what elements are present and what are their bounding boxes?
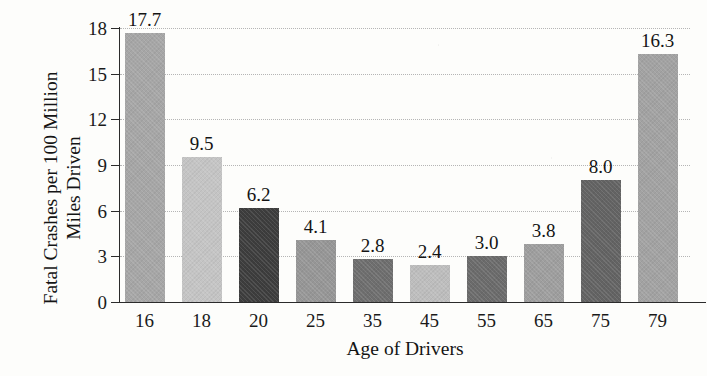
y-axis-tick xyxy=(111,302,120,303)
y-axis-tick xyxy=(111,74,120,75)
y-axis-title-line-1: Fatal Crashes per 100 Million xyxy=(39,72,62,305)
x-axis-tick-label: 18 xyxy=(192,311,211,330)
bar-value-label: 9.5 xyxy=(190,134,214,153)
x-axis-tick-label: 35 xyxy=(363,311,382,330)
y-axis-tick xyxy=(111,119,120,120)
bar[interactable] xyxy=(467,256,507,302)
y-axis-tick xyxy=(111,165,120,166)
bar[interactable] xyxy=(410,265,450,302)
y-axis-tick-label: 6 xyxy=(98,201,108,220)
x-axis-tick-label: 65 xyxy=(534,311,553,330)
y-axis-tick-label: 9 xyxy=(98,156,108,175)
bar-value-label: 3.8 xyxy=(532,221,556,240)
x-axis-tick-label: 75 xyxy=(591,311,610,330)
y-axis-title: Fatal Crashes per 100 Million Miles Driv… xyxy=(14,0,110,376)
y-axis-tick-label: 12 xyxy=(88,110,107,129)
bar-value-label: 17.7 xyxy=(128,10,161,29)
bar[interactable] xyxy=(524,244,564,302)
bar[interactable] xyxy=(581,180,621,302)
bar[interactable] xyxy=(353,259,393,302)
plot-area: 0369121518 17.7169.5186.2204.1252.8352.4… xyxy=(120,28,690,302)
y-axis-title-line-2: Miles Driven xyxy=(62,72,85,305)
bar-value-label: 4.1 xyxy=(304,217,328,236)
y-axis-tick xyxy=(111,256,120,257)
bar[interactable] xyxy=(125,33,165,302)
bar-chart-figure: Fatal Crashes per 100 Million Miles Driv… xyxy=(0,0,707,376)
x-axis-tick-label: 79 xyxy=(648,311,667,330)
y-axis-tick-label: 15 xyxy=(88,64,107,83)
y-axis-tick xyxy=(111,211,120,212)
y-axis-tick-label: 3 xyxy=(98,247,108,266)
y-axis-tick-label: 0 xyxy=(98,293,108,312)
x-axis-tick-label: 25 xyxy=(306,311,325,330)
bar-value-label: 16.3 xyxy=(641,31,674,50)
bar-value-label: 6.2 xyxy=(247,185,271,204)
bar-value-label: 8.0 xyxy=(589,157,613,176)
bar[interactable] xyxy=(182,157,222,302)
bar[interactable] xyxy=(296,240,336,302)
x-axis-tick-label: 20 xyxy=(249,311,268,330)
x-axis-tick-label: 55 xyxy=(477,311,496,330)
bar[interactable] xyxy=(638,54,678,302)
y-axis-tick-label: 18 xyxy=(88,19,107,38)
bar-value-label: 3.0 xyxy=(475,233,499,252)
x-axis-tick-label: 45 xyxy=(420,311,439,330)
bar-value-label: 2.8 xyxy=(361,236,385,255)
x-axis-tick-label: 16 xyxy=(135,311,154,330)
bar-value-label: 2.4 xyxy=(418,242,442,261)
bar[interactable] xyxy=(239,208,279,302)
bar-series: 17.7169.5186.2204.1252.8352.4453.0553.86… xyxy=(120,28,690,302)
x-axis-title: Age of Drivers xyxy=(120,338,690,360)
x-axis-line xyxy=(119,302,706,303)
y-axis-tick xyxy=(111,28,120,29)
